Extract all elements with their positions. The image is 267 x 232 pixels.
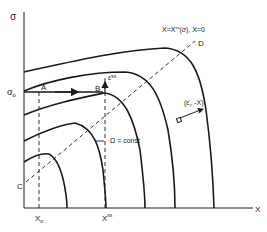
x0-label: Xo [35,214,43,224]
normal-vector-label: (ε̇i, -Ẋ) [184,98,204,108]
steady-state-label: X=Xss(σ), Ẋ=0 [162,25,205,34]
omega-const-label: Ω = const [110,137,140,144]
point-a-label: A [41,83,47,92]
normal-vector [176,109,203,123]
point-d-label: D [198,39,204,48]
y-axis-label: σ [10,11,17,22]
point-c-label: C [17,182,23,191]
right-angle-marker [176,117,181,122]
omega-curves [24,48,214,208]
steady-state-line-c-d [26,41,195,182]
curve-5-inner [24,154,67,208]
point-b-label: B [95,84,100,93]
curve-3 [24,93,145,208]
axes [24,12,253,208]
xss-label: Xss [102,212,113,223]
constitutive-diagram: σ X σo Xo Xss A B C D X=Xss(σ), Ẋ=0 ε̇ss… [0,0,267,232]
curve-4 [24,123,106,208]
x-axis-label: X [255,205,261,214]
strain-rate-label: ε̇ss [108,73,117,81]
sigma0-label: σo [7,87,17,98]
